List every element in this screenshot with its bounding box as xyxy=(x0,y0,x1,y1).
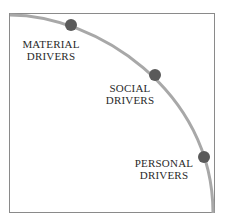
label-line: DRIVERS xyxy=(100,94,160,106)
label-line: MATERIAL xyxy=(20,38,82,50)
diagram-canvas xyxy=(0,0,228,221)
label-line: PERSONAL xyxy=(132,157,196,169)
material-dot-icon xyxy=(65,19,77,31)
personal-drivers-label: PERSONAL DRIVERS xyxy=(132,157,196,181)
label-line: SOCIAL xyxy=(100,82,160,94)
social-drivers-label: SOCIAL DRIVERS xyxy=(100,82,160,106)
label-line: DRIVERS xyxy=(20,50,82,62)
material-drivers-label: MATERIAL DRIVERS xyxy=(20,38,82,62)
social-dot-icon xyxy=(149,69,161,81)
personal-dot-icon xyxy=(198,151,210,163)
label-line: DRIVERS xyxy=(132,169,196,181)
